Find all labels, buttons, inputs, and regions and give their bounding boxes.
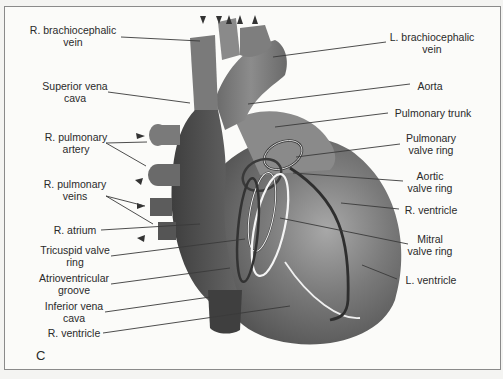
label-mitral-valve-ring: Mitral valve ring [408, 233, 453, 257]
label-r-pulmonary-artery: R. pulmonary artery [45, 131, 107, 155]
label-superior-vena-cava: Superior vena cava [42, 80, 107, 104]
label-atrioventricular-groove: Atrioventricular groove [39, 272, 109, 296]
label-aorta: Aorta [417, 80, 442, 92]
label-inferior-vena-cava: Inferior vena cava [45, 300, 103, 324]
panel-letter: C [36, 348, 45, 363]
label-pulmonary-trunk: Pulmonary trunk [395, 107, 471, 119]
label-r-pulmonary-veins: R. pulmonary veins [44, 178, 106, 202]
label-r-brachiocephalic-vein: R. brachiocephalic vein [30, 24, 116, 48]
ivc-shape [208, 290, 242, 334]
label-aortic-valve-ring: Aortic valve ring [408, 170, 453, 194]
label-l-brachiocephalic-vein: L. brachiocephalic vein [390, 31, 475, 55]
label-r-ventricle-right: R. ventricle [405, 204, 458, 216]
label-l-ventricle: L. ventricle [406, 274, 457, 286]
label-tricuspid-valve-ring: Tricuspid valve ring [40, 244, 110, 268]
label-pulmonary-valve-ring: Pulmonary valve ring [406, 132, 456, 156]
svc-shape [190, 35, 218, 120]
label-r-ventricle-left: R. ventricle [48, 327, 101, 339]
label-r-atrium: R. atrium [54, 224, 97, 236]
